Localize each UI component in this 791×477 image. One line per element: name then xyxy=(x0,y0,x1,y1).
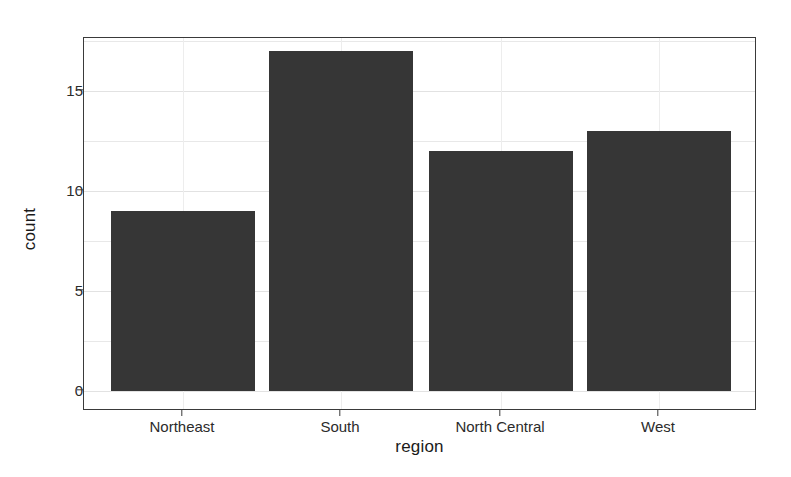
gridline-horizontal-major xyxy=(84,391,755,392)
y-axis-tick-labels: 051015 xyxy=(31,0,83,477)
x-tick-label: North Central xyxy=(455,418,544,435)
plot-panel xyxy=(83,37,756,410)
x-tick-label: South xyxy=(320,418,359,435)
bar-northeast[interactable] xyxy=(111,211,255,391)
bar-chart-figure: count 051015 NortheastSouthNorth Central… xyxy=(0,0,791,477)
x-tick-label: West xyxy=(641,418,675,435)
x-tick-mark xyxy=(499,410,500,416)
x-tick-label: Northeast xyxy=(149,418,214,435)
x-axis-tick-marks xyxy=(0,410,791,417)
bar-north-central[interactable] xyxy=(429,151,573,391)
x-tick-mark xyxy=(181,410,182,416)
bar-west[interactable] xyxy=(587,131,731,391)
x-tick-mark xyxy=(339,410,340,416)
x-axis-title: region xyxy=(83,437,756,457)
bar-south[interactable] xyxy=(269,51,413,391)
gridline-horizontal-major xyxy=(84,91,755,92)
gridline-horizontal-minor xyxy=(84,41,755,42)
x-tick-mark xyxy=(657,410,658,416)
